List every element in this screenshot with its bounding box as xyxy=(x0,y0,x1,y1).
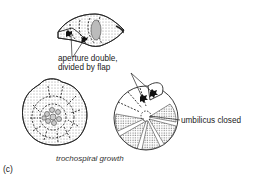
figure-panel-c: aperture double, divided by flap umbilic… xyxy=(0,0,264,182)
aperture-label-line2: divided by flap xyxy=(58,63,118,72)
foraminifera-illustration xyxy=(0,0,264,182)
umbilical-side-shell xyxy=(114,73,180,150)
spiral-side-shell xyxy=(23,79,87,145)
figure-caption: trochospiral growth xyxy=(56,154,124,163)
side-view-shell xyxy=(58,14,124,57)
aperture-label: aperture double, divided by flap xyxy=(58,54,118,72)
aperture-label-line1: aperture double, xyxy=(58,54,118,63)
panel-label: (c) xyxy=(3,165,13,174)
umbilicus-label: umbilicus closed xyxy=(181,116,241,125)
